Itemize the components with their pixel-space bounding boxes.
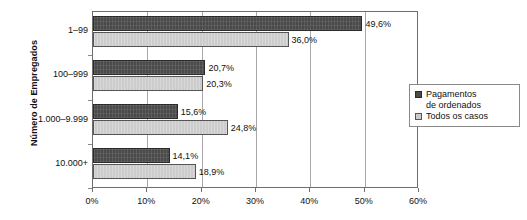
y-tick-mark: [88, 55, 92, 56]
x-tick-mark: [418, 188, 419, 192]
bar-value-label: 24,8%: [231, 123, 257, 133]
y-tick-mark: [88, 144, 92, 145]
bar-value-label: 18,9%: [199, 167, 225, 177]
bar: [93, 60, 205, 75]
y-axis-tick-labels: 1–99100–9991.000–9.99910.000+: [0, 0, 88, 220]
x-tick-mark: [255, 188, 256, 192]
bar-value-label: 20,3%: [206, 79, 232, 89]
y-tick-mark: [88, 100, 92, 101]
x-tick-mark: [201, 188, 202, 192]
x-tick-mark: [364, 188, 365, 192]
bar: [93, 104, 178, 119]
chart-legend: Pagamentos de ordenadosTodos os casos: [409, 84, 520, 127]
bar: [93, 164, 196, 179]
legend-item-label: Todos os casos: [426, 111, 488, 122]
y-axis-tick-label: 1–99: [2, 25, 88, 35]
legend-item-label: Pagamentos de ordenados: [426, 89, 481, 111]
legend-item[interactable]: Pagamentos de ordenados: [415, 89, 515, 111]
legend-item[interactable]: Todos os casos: [415, 111, 515, 122]
bar-value-label: 49,6%: [365, 19, 391, 29]
bar-value-label: 15,6%: [181, 107, 207, 117]
plot-area: 49,6%36,0%20,7%20,3%15,6%24,8%14,1%18,9%: [92, 11, 418, 188]
y-axis-tick-label: 1.000–9.999: [2, 114, 88, 124]
x-gridline: [365, 12, 366, 187]
bar: [93, 120, 228, 135]
dark-square-icon: [415, 91, 422, 98]
bar-chart: Número de Empregados 1–99100–9991.000–9.…: [0, 0, 527, 220]
x-axis-tick-label: 20%: [192, 196, 210, 206]
bar-value-label: 20,7%: [208, 63, 234, 73]
bar: [93, 148, 170, 163]
x-tick-mark: [309, 188, 310, 192]
x-axis-tick-label: 50%: [355, 196, 373, 206]
bar: [93, 16, 362, 31]
x-axis-tick-label: 10%: [137, 196, 155, 206]
bar: [93, 76, 203, 91]
y-axis-tick-label: 10.000+: [2, 158, 88, 168]
bar: [93, 32, 289, 47]
bar-value-label: 14,1%: [173, 151, 199, 161]
x-tick-mark: [146, 188, 147, 192]
x-axis-tick-label: 30%: [246, 196, 264, 206]
x-axis-tick-label: 40%: [300, 196, 318, 206]
x-axis-tick-label: 0%: [85, 196, 98, 206]
bar-value-label: 36,0%: [292, 35, 318, 45]
x-axis-tick-label: 60%: [409, 196, 427, 206]
x-axis-tick-labels: 0%10%20%30%40%50%60%: [0, 192, 527, 210]
x-tick-mark: [92, 188, 93, 192]
y-axis-tick-label: 100–999: [2, 69, 88, 79]
light-square-icon: [415, 113, 422, 120]
